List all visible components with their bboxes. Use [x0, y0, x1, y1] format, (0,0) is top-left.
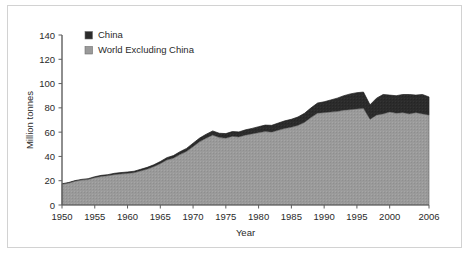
- y-axis-tick-label: 40: [44, 151, 55, 162]
- chart-figure: 0204060801001201401950195519601965197019…: [0, 0, 473, 257]
- x-axis-title: Year: [236, 227, 255, 238]
- x-axis-tick-label: 1965: [150, 211, 171, 222]
- x-axis-tick-label: 1995: [346, 211, 367, 222]
- x-axis-tick-label: 1950: [51, 211, 72, 222]
- x-axis-tick-label: 2006: [418, 211, 439, 222]
- y-axis-title: Million tonnes: [24, 91, 35, 149]
- legend-label: China: [98, 29, 124, 40]
- x-axis-tick-label: 1955: [84, 211, 105, 222]
- y-axis-tick-label: 0: [50, 200, 55, 211]
- x-axis-tick-label: 1980: [248, 211, 269, 222]
- chart-legend: ChinaWorld Excluding China: [85, 29, 195, 55]
- x-axis-tick-label: 1960: [117, 211, 138, 222]
- area-series-world-excluding-china: [62, 108, 429, 205]
- y-axis-tick-label: 60: [44, 127, 55, 138]
- x-axis-tick-label: 1990: [314, 211, 335, 222]
- y-axis-tick-label: 100: [39, 78, 55, 89]
- legend-swatch: [85, 47, 93, 55]
- plot-area: [62, 92, 429, 205]
- y-axis-tick-label: 80: [44, 102, 55, 113]
- x-axis-tick-label: 2000: [379, 211, 400, 222]
- legend-swatch: [85, 32, 93, 40]
- y-axis-tick-label: 120: [39, 54, 55, 65]
- x-axis-tick-label: 1970: [183, 211, 204, 222]
- y-axis-tick-label: 140: [39, 30, 55, 41]
- legend-label: World Excluding China: [98, 44, 195, 55]
- stacked-area-chart: 0204060801001201401950195519601965197019…: [0, 0, 473, 257]
- x-axis-tick-label: 1975: [215, 211, 236, 222]
- x-axis-tick-label: 1985: [281, 211, 302, 222]
- y-axis-tick-label: 20: [44, 175, 55, 186]
